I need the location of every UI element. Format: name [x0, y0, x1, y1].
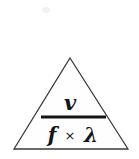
scan-speck-artifact [42, 7, 50, 13]
formula-triangle-graphic: v f × λ [0, 0, 139, 159]
formula-triangle-diagram: v f × λ [0, 0, 139, 159]
numerator-variable-v: v [64, 90, 77, 115]
denominator-variable-lambda: λ [83, 123, 98, 147]
multiplication-operator-icon: × [65, 128, 76, 143]
